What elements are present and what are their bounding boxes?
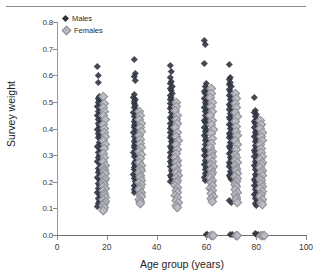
x-axis-ticks: 020406080100 (57, 236, 307, 256)
x-axis-tick (157, 236, 158, 240)
x-axis-tick (206, 236, 207, 240)
x-axis-tick-label: 60 (202, 242, 211, 252)
data-point-m (95, 79, 101, 85)
y-axis-tick (53, 102, 57, 103)
y-axis-tick (53, 129, 57, 130)
y-axis-tick-label: 0.6 (42, 71, 53, 80)
y-axis-tick-label: 0.1 (42, 204, 53, 213)
x-axis-tick (256, 236, 257, 240)
data-point-m (95, 73, 101, 79)
x-axis-tick (306, 236, 307, 240)
x-axis-tick-label: 80 (251, 242, 260, 252)
scatter-plot-figure: Males Females 0.00.10.20.30.40.50.60.70.… (0, 0, 313, 280)
data-point-m (202, 41, 208, 47)
y-axis-tick-label: 0.7 (42, 44, 53, 53)
data-point-m (94, 63, 100, 69)
x-axis-title: Age group (years) (57, 258, 307, 270)
data-point-m (168, 68, 174, 74)
data-point-m (131, 56, 137, 62)
x-axis-tick-label: 40 (152, 242, 161, 252)
x-axis-tick (107, 236, 108, 240)
y-axis-tick-label: 0.4 (42, 124, 53, 133)
y-axis-tick-label: 0.5 (42, 97, 53, 106)
data-point-m (132, 77, 138, 83)
header-divider (6, 6, 306, 7)
filled-diamond-icon (62, 14, 69, 21)
y-axis-tick-label: 0.2 (42, 177, 53, 186)
x-axis-tick-label: 20 (102, 242, 111, 252)
y-axis-tick (53, 49, 57, 50)
plot-area: 0.00.10.20.30.40.50.60.70.8 (57, 22, 306, 235)
y-axis-tick-label: 0.8 (42, 18, 53, 27)
data-point-m (201, 60, 207, 66)
y-axis-tick-label: 0.0 (42, 231, 53, 240)
x-axis-tick-label: 0 (55, 242, 60, 252)
y-axis-tick (53, 75, 57, 76)
y-axis-tick (53, 22, 57, 23)
data-point-m (251, 94, 257, 100)
y-axis-tick (53, 155, 57, 156)
y-axis-tick (53, 182, 57, 183)
x-axis-tick (57, 236, 58, 240)
y-axis-title: Survey weight (5, 49, 17, 179)
y-axis-tick-label: 0.3 (42, 151, 53, 160)
data-point-m (226, 61, 232, 67)
x-axis-tick-label: 100 (299, 242, 313, 252)
y-axis-tick (53, 208, 57, 209)
